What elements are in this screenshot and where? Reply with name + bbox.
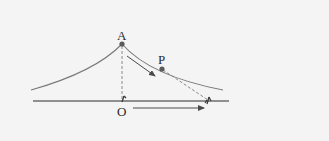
label-A: A: [117, 28, 127, 43]
label-O: O: [117, 104, 126, 119]
point-P: [159, 66, 164, 71]
curved-slope-right: [122, 44, 223, 90]
label-P: P: [158, 52, 165, 67]
curved-slope-left: [31, 44, 122, 90]
physics-diagram: A P O: [0, 0, 329, 141]
